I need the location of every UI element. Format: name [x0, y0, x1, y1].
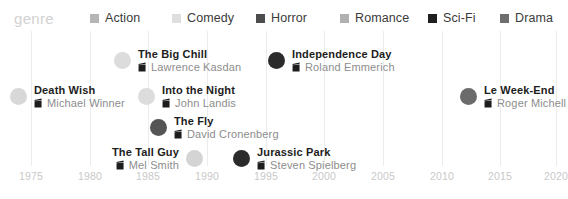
director-name: Roland Emmerich — [305, 61, 395, 74]
director-name: Steven Spielberg — [270, 159, 356, 172]
clapperboard-icon — [162, 98, 171, 108]
x-axis-tick-label: 2020 — [544, 170, 568, 182]
legend-swatch-icon — [256, 14, 265, 23]
director-row: David Cronenberg — [174, 128, 279, 141]
data-point-labels: Death WishMichael Winner — [34, 84, 125, 110]
data-point-labels: Into the NightJohn Landis — [162, 84, 236, 110]
data-point-marker[interactable] — [150, 119, 167, 136]
legend-item-label: Horror — [271, 11, 307, 25]
director-row: Roland Emmerich — [292, 61, 395, 74]
data-point-marker[interactable] — [10, 88, 27, 105]
legend-item-romance[interactable]: Romance — [340, 11, 409, 25]
film-title: The Big Chill — [138, 48, 207, 61]
data-point-labels: The Big ChillLawrence Kasdan — [138, 48, 241, 74]
director-row: Roger Michell — [484, 97, 566, 110]
legend-item-sci-fi[interactable]: Sci-Fi — [428, 11, 476, 25]
x-axis-tick-label: 2015 — [488, 170, 512, 182]
data-point[interactable]: Le Week-EndRoger Michell — [460, 84, 566, 110]
x-axis-tick-label: 1975 — [19, 170, 43, 182]
clapperboard-icon — [484, 98, 493, 108]
data-point[interactable]: Into the NightJohn Landis — [138, 84, 236, 110]
gridline — [442, 31, 443, 166]
clapperboard-icon — [138, 62, 147, 72]
data-point[interactable]: The Tall GuyMel Smith — [112, 146, 203, 172]
director-name: Mel Smith — [129, 159, 179, 172]
data-point-labels: Jurassic ParkSteven Spielberg — [257, 146, 356, 172]
legend-item-label: Sci-Fi — [443, 11, 476, 25]
data-point-labels: Independence DayRoland Emmerich — [292, 48, 395, 74]
clapperboard-icon — [257, 160, 266, 170]
legend-item-drama[interactable]: Drama — [500, 11, 553, 25]
director-row: Steven Spielberg — [257, 159, 356, 172]
data-point-marker[interactable] — [268, 52, 285, 69]
legend-swatch-icon — [90, 14, 99, 23]
data-point-marker[interactable] — [460, 88, 477, 105]
chart-legend: genre ActionComedyRomanceHorrorSci-FiDra… — [0, 9, 564, 31]
legend-item-comedy[interactable]: Comedy — [172, 11, 234, 25]
legend-item-horror[interactable]: Horror — [256, 11, 307, 25]
x-axis-tick-label: 2010 — [430, 170, 454, 182]
data-point-marker[interactable] — [114, 52, 131, 69]
legend-item-action[interactable]: Action — [90, 11, 140, 25]
data-point-labels: The Tall GuyMel Smith — [112, 146, 179, 172]
x-axis-tick-label: 2005 — [371, 170, 395, 182]
director-row: Michael Winner — [34, 97, 125, 110]
data-point[interactable]: Death WishMichael Winner — [10, 84, 125, 110]
data-point-marker[interactable] — [233, 150, 250, 167]
data-point[interactable]: Independence DayRoland Emmerich — [268, 48, 395, 74]
data-point[interactable]: The Big ChillLawrence Kasdan — [114, 48, 241, 74]
film-title: Jurassic Park — [257, 146, 331, 159]
legend-swatch-icon — [172, 14, 181, 23]
x-axis-tick-label: 1980 — [78, 170, 102, 182]
clapperboard-icon — [116, 160, 125, 170]
film-title: Into the Night — [162, 84, 235, 97]
clapperboard-icon — [34, 98, 43, 108]
data-point[interactable]: The FlyDavid Cronenberg — [150, 115, 279, 141]
data-point-labels: Le Week-EndRoger Michell — [484, 84, 566, 110]
legend-item-label: Comedy — [187, 11, 234, 25]
director-name: Michael Winner — [47, 97, 125, 110]
film-title: The Fly — [174, 115, 214, 128]
film-title: The Tall Guy — [112, 146, 179, 159]
data-point[interactable]: Jurassic ParkSteven Spielberg — [233, 146, 356, 172]
director-row: Mel Smith — [116, 159, 179, 172]
legend-swatch-icon — [340, 14, 349, 23]
legend-swatch-icon — [500, 14, 509, 23]
director-name: Roger Michell — [497, 97, 566, 110]
legend-item-label: Action — [105, 11, 140, 25]
director-name: Lawrence Kasdan — [151, 61, 241, 74]
legend-title: genre — [14, 10, 54, 27]
data-point-marker[interactable] — [186, 150, 203, 167]
director-name: David Cronenberg — [187, 128, 279, 141]
legend-swatch-icon — [428, 14, 437, 23]
legend-item-label: Drama — [515, 11, 553, 25]
clapperboard-icon — [174, 129, 183, 139]
director-row: Lawrence Kasdan — [138, 61, 241, 74]
data-point-labels: The FlyDavid Cronenberg — [174, 115, 279, 141]
film-title: Le Week-End — [484, 84, 555, 97]
film-title: Independence Day — [292, 48, 392, 61]
legend-item-label: Romance — [355, 11, 409, 25]
film-title: Death Wish — [34, 84, 95, 97]
director-name: John Landis — [175, 97, 236, 110]
data-point-marker[interactable] — [138, 88, 155, 105]
director-row: John Landis — [162, 97, 236, 110]
clapperboard-icon — [292, 62, 301, 72]
